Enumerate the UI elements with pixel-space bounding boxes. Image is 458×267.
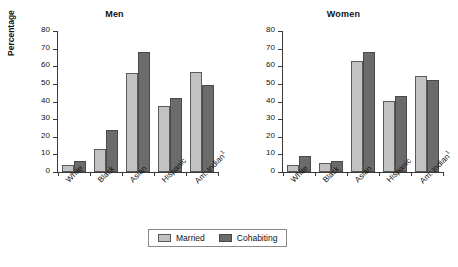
bar-group bbox=[379, 31, 411, 172]
y-axis-tick-label: 0 bbox=[271, 166, 275, 175]
legend-item-cohabiting: Cohabiting bbox=[219, 233, 278, 243]
chart-figure: Men Percentage 01020304050607080 WhiteBl… bbox=[0, 0, 458, 267]
y-axis-tick-label: 60 bbox=[266, 60, 275, 69]
panel-women-title: Women bbox=[229, 9, 458, 19]
chart-panels: Men Percentage 01020304050607080 WhiteBl… bbox=[0, 0, 458, 215]
chart-legend: Married Cohabiting bbox=[148, 229, 287, 247]
legend-item-married: Married bbox=[158, 233, 205, 243]
y-axis-tick-label: 10 bbox=[41, 148, 50, 157]
y-axis-tick-label: 40 bbox=[41, 96, 50, 105]
x-axis-tick bbox=[218, 172, 219, 176]
y-axis-tick-label: 50 bbox=[41, 78, 50, 87]
bar-group bbox=[315, 31, 347, 172]
y-axis-tick-label: 30 bbox=[41, 113, 50, 122]
bar-groups-men bbox=[58, 31, 218, 172]
panel-men: Men Percentage 01020304050607080 WhiteBl… bbox=[0, 0, 229, 215]
bar-married bbox=[190, 72, 202, 172]
bar-married bbox=[351, 61, 363, 172]
x-axis-labels-women: WhiteBlackAsianHispanicAm. Indian1 bbox=[283, 174, 443, 224]
bar-married bbox=[383, 101, 395, 172]
bar-cohabiting bbox=[138, 52, 150, 172]
x-axis-labels-men: WhiteBlackAsianHispanicAm. Indian1 bbox=[58, 174, 218, 224]
bar-group bbox=[186, 31, 218, 172]
bar-group bbox=[58, 31, 90, 172]
y-axis-tick-label: 40 bbox=[266, 96, 275, 105]
panel-women: Women 01020304050607080 WhiteBlackAsianH… bbox=[229, 0, 458, 215]
legend-swatch-cohabiting-icon bbox=[219, 234, 232, 242]
bar-group bbox=[90, 31, 122, 172]
bar-married bbox=[415, 76, 427, 172]
bar-groups-women bbox=[283, 31, 443, 172]
legend-label-cohabiting: Cohabiting bbox=[237, 233, 278, 243]
y-axis-tick-label: 60 bbox=[41, 60, 50, 69]
y-axis-tick-label: 80 bbox=[266, 25, 275, 34]
bar-group bbox=[347, 31, 379, 172]
y-axis-tick-label: 80 bbox=[41, 25, 50, 34]
legend-label-married: Married bbox=[176, 233, 205, 243]
y-axis-tick-label: 0 bbox=[46, 166, 50, 175]
y-axis-tick-label: 20 bbox=[41, 131, 50, 140]
y-axis-tick-label: 70 bbox=[41, 43, 50, 52]
y-axis-tick-label: 30 bbox=[266, 113, 275, 122]
footnote-marker: 1 bbox=[219, 149, 225, 155]
y-axis-label: Percentage bbox=[6, 10, 16, 56]
bar-group bbox=[122, 31, 154, 172]
bar-group bbox=[154, 31, 186, 172]
footnote-marker: 1 bbox=[444, 149, 450, 155]
y-axis-tick-label: 50 bbox=[266, 78, 275, 87]
bar-cohabiting bbox=[363, 52, 375, 172]
x-axis-tick bbox=[443, 172, 444, 176]
panel-men-title: Men bbox=[0, 9, 229, 19]
y-axis-tick-label: 20 bbox=[266, 131, 275, 140]
y-axis-tick-label: 70 bbox=[266, 43, 275, 52]
plot-area-men: 01020304050607080 WhiteBlackAsianHispani… bbox=[58, 31, 218, 172]
bar-group bbox=[411, 31, 443, 172]
legend-swatch-married-icon bbox=[158, 234, 171, 242]
bar-group bbox=[283, 31, 315, 172]
plot-area-women: 01020304050607080 WhiteBlackAsianHispani… bbox=[283, 31, 443, 172]
bar-married bbox=[158, 106, 170, 172]
y-axis-tick-label: 10 bbox=[266, 148, 275, 157]
bar-married bbox=[126, 73, 138, 172]
